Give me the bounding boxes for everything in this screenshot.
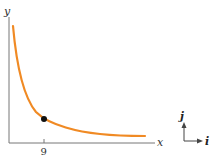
x-tick-label: 9 — [41, 146, 47, 157]
diagram-canvas: y x 9 j i — [0, 0, 218, 160]
x-axis-label: x — [157, 136, 164, 149]
j-label: j — [178, 110, 184, 123]
curve-point — [41, 116, 47, 122]
i-arrow-icon — [197, 139, 203, 144]
i-label: i — [205, 135, 209, 148]
y-axis-label: y — [3, 5, 11, 18]
basis-vectors: j i — [178, 110, 209, 148]
curve — [13, 26, 145, 136]
